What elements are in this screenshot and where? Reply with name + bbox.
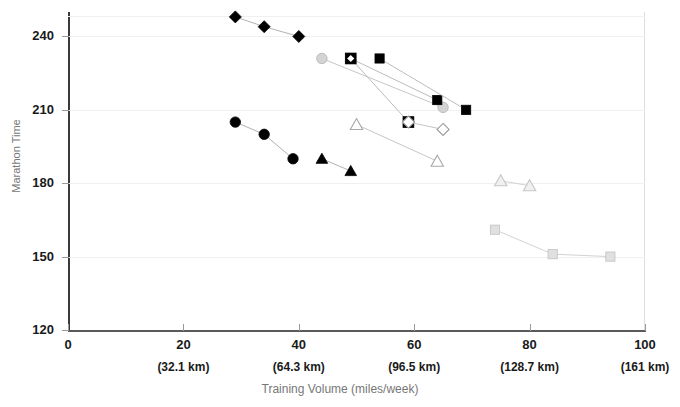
- x-tick-40: [299, 324, 300, 331]
- gridline-y-210: [68, 110, 645, 111]
- y-axis-line: [68, 12, 70, 332]
- x-tick-20: [183, 324, 184, 331]
- x-tick-km-label-80: (128.7 km): [485, 360, 575, 375]
- x-tick-km-label-40: (64.3 km): [254, 360, 344, 375]
- marathon-training-scatter-chart: 120150180210240 020(32.1 km)40(64.3 km)6…: [0, 0, 680, 407]
- y-tick-label-240: 240: [8, 29, 54, 42]
- x-tick-100: [645, 324, 646, 331]
- x-tick-label-40: 40: [269, 337, 329, 352]
- y-tick-210: [62, 110, 69, 111]
- y-axis-title: Marathon Time: [10, 96, 22, 216]
- gridline-y-150: [68, 257, 645, 258]
- y-tick-label-120: 120: [8, 323, 54, 336]
- gridline-y-180: [68, 183, 645, 184]
- x-tick-label-60: 60: [384, 337, 444, 352]
- x-tick-km-label-100: (161 km): [600, 360, 680, 375]
- x-axis-title: Training Volume (miles/week): [0, 382, 680, 396]
- y-tick-150: [62, 257, 69, 258]
- x-tick-km-label-60: (96.5 km): [369, 360, 459, 375]
- y-tick-180: [62, 183, 69, 184]
- x-tick-km-label-20: (32.1 km): [138, 360, 228, 375]
- x-tick-label-100: 100: [615, 337, 675, 352]
- gridline-y-240: [68, 36, 645, 37]
- plot-area: [68, 12, 645, 330]
- plot-right-border: [644, 12, 645, 330]
- gridline-top: [68, 16, 645, 17]
- x-tick-60: [414, 324, 415, 331]
- y-tick-240: [62, 36, 69, 37]
- x-tick-label-0: 0: [38, 337, 98, 352]
- y-tick-label-150: 150: [8, 250, 54, 263]
- x-tick-label-80: 80: [500, 337, 560, 352]
- x-axis-line: [68, 330, 646, 332]
- x-tick-0: [68, 324, 69, 331]
- x-tick-80: [530, 324, 531, 331]
- x-tick-label-20: 20: [153, 337, 213, 352]
